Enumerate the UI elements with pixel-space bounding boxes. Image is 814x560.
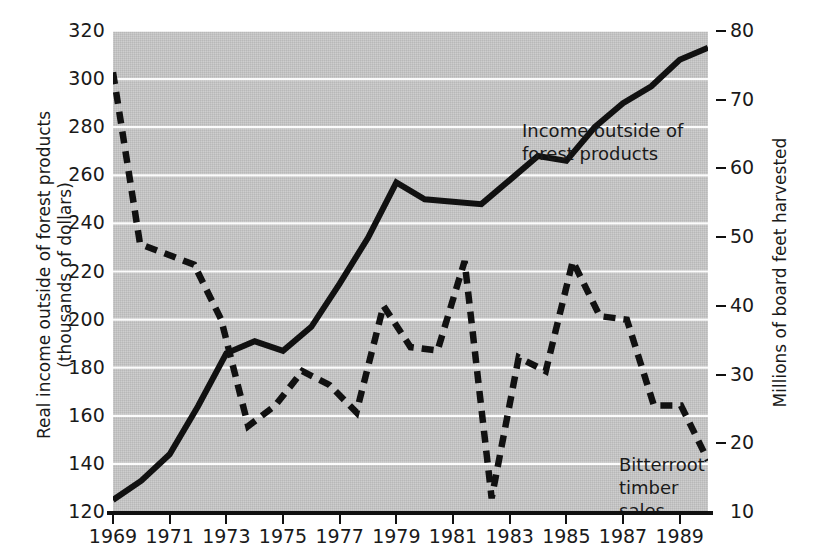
y-axis-right-tick-mark bbox=[716, 99, 726, 101]
x-axis-tick-mark bbox=[622, 515, 624, 524]
y-axis-left-title: Real income outside of forest products (… bbox=[34, 80, 76, 470]
y-axis-right-tick-label: 30 bbox=[730, 365, 754, 384]
y-axis-right-tick-label: 80 bbox=[730, 21, 754, 40]
annotation-income-line1: Income outside of bbox=[522, 119, 683, 142]
x-axis-tick-label: 1983 bbox=[478, 527, 542, 546]
y-axis-left-tick-label: 120 bbox=[59, 502, 105, 521]
y-axis-left-title-line2: (thousands of dollars) bbox=[55, 80, 76, 470]
x-axis-tick-mark bbox=[225, 515, 227, 524]
x-axis-tick-mark bbox=[282, 515, 284, 524]
x-axis-tick-label: 1971 bbox=[138, 527, 202, 546]
plot-area: Income outside of forest products Bitter… bbox=[113, 31, 708, 512]
x-axis-tick-mark bbox=[509, 515, 511, 524]
x-axis-tick-mark bbox=[395, 515, 397, 524]
x-axis-tick-mark bbox=[112, 515, 114, 524]
x-axis-tick-mark bbox=[339, 515, 341, 524]
annotation-income-line2: forest products bbox=[522, 142, 683, 165]
y-axis-right-tick-mark bbox=[716, 236, 726, 238]
y-axis-left-title-line1: Real income outside of forest products bbox=[34, 80, 55, 470]
x-axis-tick-label: 1975 bbox=[251, 527, 315, 546]
x-axis-tick-label: 1981 bbox=[421, 527, 485, 546]
y-axis-right-title: Millions of board feet harvested bbox=[770, 78, 791, 468]
y-axis-right-tick-mark bbox=[716, 305, 726, 307]
x-axis-tick-label: 1985 bbox=[534, 527, 598, 546]
chart-figure: Income outside of forest products Bitter… bbox=[0, 0, 814, 560]
y-axis-right-tick-mark bbox=[716, 442, 726, 444]
x-axis-tick-label: 1989 bbox=[648, 527, 712, 546]
y-axis-right-tick-label: 20 bbox=[730, 433, 754, 452]
y-axis-right-tick-label: 60 bbox=[730, 158, 754, 177]
x-axis-tick-mark bbox=[679, 515, 681, 524]
x-axis-tick-mark bbox=[452, 515, 454, 524]
x-axis-tick-label: 1987 bbox=[591, 527, 655, 546]
x-axis-tick-label: 1969 bbox=[81, 527, 145, 546]
x-axis-tick-label: 1977 bbox=[308, 527, 372, 546]
x-axis-tick-mark bbox=[565, 515, 567, 524]
y-axis-right-tick-label: 50 bbox=[730, 227, 754, 246]
annotation-timber-series: Bitterroot timber sales bbox=[619, 453, 708, 512]
annotation-income-series: Income outside of forest products bbox=[522, 119, 683, 165]
y-axis-right-tick-label: 40 bbox=[730, 296, 754, 315]
y-axis-right-tick-mark bbox=[716, 374, 726, 376]
data-lines bbox=[113, 31, 708, 512]
y-axis-right-tick-mark bbox=[716, 30, 726, 32]
y-axis-left-tick-label: 320 bbox=[59, 21, 105, 40]
x-axis-tick-mark bbox=[169, 515, 171, 524]
y-axis-right-tick-label: 10 bbox=[730, 502, 754, 521]
y-axis-right-tick-mark bbox=[716, 167, 726, 169]
x-axis-tick-label: 1979 bbox=[364, 527, 428, 546]
y-axis-right-ticks: 1020304050607080 bbox=[716, 0, 776, 560]
x-axis-tick-label: 1973 bbox=[194, 527, 258, 546]
y-axis-right-tick-label: 70 bbox=[730, 90, 754, 109]
